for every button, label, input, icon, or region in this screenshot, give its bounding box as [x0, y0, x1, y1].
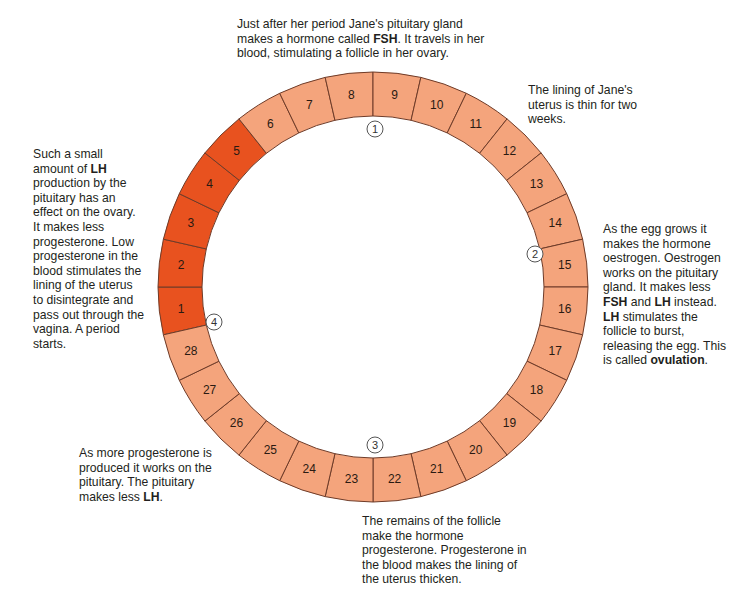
day-label: 17 — [548, 344, 562, 358]
note-keyword: LH — [603, 310, 619, 324]
note-keyword: LH — [654, 295, 670, 309]
day-label: 3 — [187, 216, 194, 230]
note-text: production by the pituitary has an effec… — [33, 176, 144, 351]
day-label: 12 — [503, 144, 517, 158]
day-label: 23 — [345, 472, 359, 486]
day-label: 4 — [206, 177, 213, 191]
day-label: 14 — [548, 216, 562, 230]
note-stage-4-period: Such a small amount of LH production by … — [33, 147, 145, 351]
note-stage-3-progesterone: The remains of the follicle make the hor… — [362, 514, 532, 587]
day-label: 28 — [184, 344, 198, 358]
stage-marker-label: 3 — [372, 439, 378, 451]
note-text: instead. — [671, 295, 717, 309]
day-label: 13 — [530, 177, 544, 191]
stage-marker-label: 2 — [532, 248, 538, 260]
note-keyword: ovulation — [650, 353, 704, 367]
day-label: 27 — [203, 383, 217, 397]
note-text: . — [705, 353, 708, 367]
note-keyword: LH — [91, 162, 107, 176]
day-label: 26 — [230, 416, 244, 430]
note-text: . — [160, 490, 163, 504]
day-label: 18 — [530, 383, 544, 397]
day-label: 9 — [391, 88, 398, 102]
day-label: 11 — [469, 117, 482, 131]
note-text: The lining of Jane's uterus is thin for … — [528, 83, 637, 126]
note-text: The remains of the follicle make the hor… — [362, 514, 527, 586]
stage-marker-label: 4 — [211, 316, 217, 328]
note-text: and — [627, 295, 654, 309]
day-label: 5 — [233, 144, 240, 158]
note-keyword: FSH — [373, 32, 397, 46]
note-stage-1-fsh: Just after her period Jane's pituitary g… — [237, 17, 497, 61]
day-label: 16 — [558, 302, 572, 316]
note-keyword: LH — [143, 490, 159, 504]
day-label: 10 — [430, 98, 444, 112]
day-label: 6 — [267, 117, 274, 131]
day-label: 19 — [503, 416, 517, 430]
day-label: 20 — [469, 443, 483, 457]
stage-marker-label: 1 — [372, 123, 378, 135]
day-label: 22 — [388, 472, 402, 486]
day-label: 2 — [178, 258, 185, 272]
day-label: 8 — [348, 88, 355, 102]
note-progesterone-lh: As more progesterone is produced it work… — [79, 446, 221, 504]
day-label: 25 — [264, 443, 278, 457]
stage-markers: 1234 — [206, 121, 543, 453]
day-label: 15 — [558, 258, 572, 272]
day-label: 24 — [303, 462, 317, 476]
day-label: 7 — [306, 98, 313, 112]
note-uterus-thin: The lining of Jane's uterus is thin for … — [528, 83, 653, 127]
day-label: 21 — [430, 462, 444, 476]
day-label: 1 — [178, 302, 185, 316]
note-keyword: FSH — [603, 295, 627, 309]
note-stage-2-ovulation: As the egg grows it makes the hormone oe… — [603, 222, 729, 368]
note-text: As the egg grows it makes the hormone oe… — [603, 222, 721, 294]
